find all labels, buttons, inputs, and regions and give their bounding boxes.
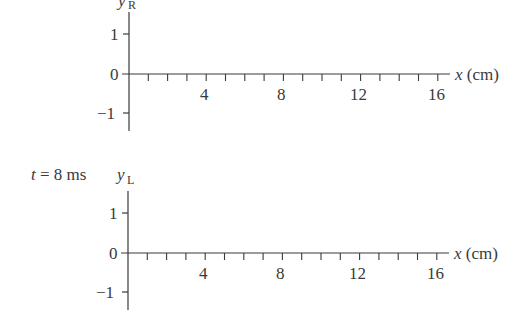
top-x-ticks	[148, 74, 438, 81]
top-x-tick-label-8: 8	[277, 85, 286, 104]
top-y-axis-label: y	[116, 0, 126, 10]
bottom-x-tick-label-16: 16	[427, 264, 444, 283]
top-y-tick-label-neg1: −1	[97, 104, 115, 123]
bottom-panel: t = 8 ms y L 1 0 −1 4 8 12 16 x (cm)	[31, 165, 498, 310]
top-x-tick-label-12: 12	[350, 85, 367, 104]
time-label: t = 8 ms	[31, 165, 86, 184]
bottom-y-tick-label-1: 1	[109, 204, 118, 223]
bottom-y-tick-label-0: 0	[109, 244, 118, 263]
bottom-x-axis-label: x (cm)	[453, 244, 498, 263]
bottom-x-tick-label-8: 8	[276, 264, 285, 283]
bottom-x-tick-label-4: 4	[199, 264, 208, 283]
top-x-axis-label: x (cm)	[454, 65, 499, 84]
bottom-y-tick-label-neg1: −1	[96, 283, 114, 302]
top-x-tick-label-4: 4	[200, 85, 209, 104]
top-y-tick-label-0: 0	[110, 65, 119, 84]
bottom-x-ticks	[147, 253, 437, 260]
bottom-y-axis-label: y	[115, 165, 125, 184]
top-x-tick-label-16: 16	[428, 85, 445, 104]
top-y-axis-subscript: R	[128, 0, 136, 12]
bottom-x-tick-label-12: 12	[349, 264, 366, 283]
bottom-y-axis-subscript: L	[127, 173, 134, 187]
top-panel: y R 1 0 −1 4 8 12 16 x (cm)	[97, 0, 499, 131]
top-y-tick-label-1: 1	[110, 25, 119, 44]
diagram-canvas: y R 1 0 −1 4 8 12 16 x (cm) t = 8 ms y L…	[0, 0, 529, 322]
